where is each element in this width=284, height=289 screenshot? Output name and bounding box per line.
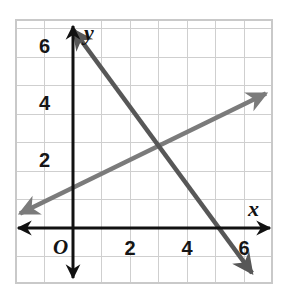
x-tick-label-4: 4 [181, 238, 192, 258]
x-tick-label-2: 2 [124, 238, 135, 258]
y-tick-label-6: 6 [39, 36, 50, 56]
y-tick-label-4: 4 [39, 93, 50, 113]
origin-label: O [53, 237, 68, 258]
x-axis-label: x [248, 198, 259, 220]
y-axis-label: y [84, 22, 94, 44]
x-tick-label-6: 6 [238, 238, 249, 258]
y-tick-label-2: 2 [39, 150, 50, 170]
coordinate-plane-figure: 6 4 2 2 4 6 O y x [0, 0, 284, 289]
